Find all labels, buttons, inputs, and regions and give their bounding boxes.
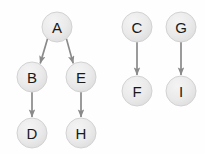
node-h-label: H <box>76 125 87 142</box>
node-e-label: E <box>76 69 86 86</box>
node-g-label: G <box>175 19 187 36</box>
node-i-label: I <box>179 83 183 100</box>
node-g[interactable]: G <box>166 12 196 42</box>
node-c-label: C <box>132 19 143 36</box>
node-a[interactable]: A <box>42 12 72 42</box>
node-h[interactable]: H <box>66 118 96 148</box>
edge-a-b <box>40 39 47 64</box>
diagram-canvas: A B E D H C F <box>0 0 205 154</box>
node-a-label: A <box>52 19 62 36</box>
node-d-label: D <box>27 125 38 142</box>
node-f-label: F <box>132 83 141 100</box>
edge-layer <box>32 39 181 117</box>
edge-a-e <box>66 39 73 64</box>
node-b-label: B <box>27 69 37 86</box>
node-layer: A B E D H C F <box>17 12 196 148</box>
node-i[interactable]: I <box>166 76 196 106</box>
node-d[interactable]: D <box>17 118 47 148</box>
node-b[interactable]: B <box>17 62 47 92</box>
node-c[interactable]: C <box>122 12 152 42</box>
graph-svg: A B E D H C F <box>0 0 205 154</box>
node-f[interactable]: F <box>122 76 152 106</box>
node-e[interactable]: E <box>66 62 96 92</box>
